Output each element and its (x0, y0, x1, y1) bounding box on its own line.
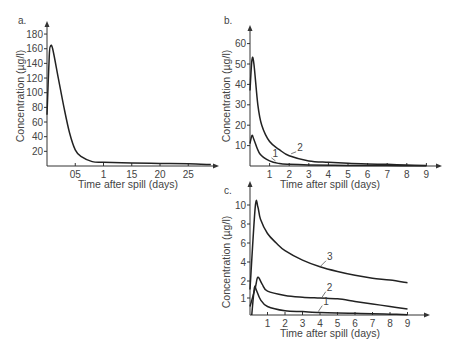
y-axis-label: Concentration (µg/l) (14, 50, 26, 142)
x-axis-arrow-icon (424, 313, 430, 318)
y-tick-label: 120 (26, 73, 43, 84)
series-curve-main (47, 45, 211, 164)
series-curve-3 (250, 200, 408, 289)
y-tick-label: 4 (240, 257, 246, 268)
x-axis-label: Time after spill (days) (280, 327, 380, 339)
x-tick-label: 7 (384, 169, 390, 180)
y-tick-label: 100 (26, 87, 43, 98)
y-tick-label: 60 (32, 117, 44, 128)
y-tick-label: 20 (235, 120, 247, 131)
series-label: 2 (327, 282, 333, 293)
y-tick-label: 40 (235, 79, 247, 90)
y-tick-label: 180 (26, 29, 43, 40)
x-tick-label: 1 (267, 169, 273, 180)
panel-label: c. (224, 185, 232, 196)
x-axis-label: Time after spill (days) (280, 178, 380, 190)
y-tick-label: 80 (32, 102, 44, 113)
y-axis-label: Concentration (µg/l) (220, 50, 232, 142)
y-tick-label: 140 (26, 58, 43, 69)
y-tick-label: 160 (26, 43, 43, 54)
y-tick-label: 1 (240, 293, 246, 304)
x-axis-label: Time after spill (days) (78, 178, 178, 190)
panel-label: a. (18, 15, 26, 26)
y-tick-label: 6 (240, 238, 246, 249)
series-label: 3 (327, 251, 333, 262)
x-axis-arrow-icon (213, 164, 219, 169)
series-label: 1 (323, 296, 329, 307)
chart-panel-b: b.102030405060123456789Time after spill … (220, 15, 442, 190)
y-tick-label: 50 (235, 59, 247, 70)
panel-label: b. (224, 15, 232, 26)
series-label: 1 (272, 148, 278, 159)
y-axis-arrow-icon (45, 21, 50, 27)
y-tick-label: 10 (235, 200, 247, 211)
y-tick-label: 30 (235, 99, 247, 110)
chart-panel-c: c.1246810123456789Time after spill (days… (220, 181, 430, 339)
y-tick-label: 60 (235, 38, 247, 49)
y-tick-label: 8 (240, 219, 246, 230)
x-tick-label: 9 (424, 169, 430, 180)
y-axis-arrow-icon (248, 181, 253, 187)
y-tick-label: 10 (235, 140, 247, 151)
series-label: 2 (297, 142, 303, 153)
x-tick-label: 8 (387, 318, 393, 329)
x-tick-label: 1 (265, 318, 271, 329)
y-axis-label: Concentration (µg/l) (220, 216, 232, 308)
y-tick-label: 2 (240, 276, 246, 287)
x-tick-label: 8 (404, 169, 410, 180)
y-axis-arrow-icon (248, 25, 253, 31)
x-axis-arrow-icon (436, 164, 442, 169)
figure: a.20406080100120140160180051152025Time a… (0, 0, 450, 350)
x-tick-label: 9 (405, 318, 411, 329)
y-tick-label: 40 (32, 131, 44, 142)
y-tick-label: 20 (32, 146, 44, 157)
chart-panel-a: a.20406080100120140160180051152025Time a… (14, 15, 219, 190)
x-tick-label: 25 (183, 169, 195, 180)
